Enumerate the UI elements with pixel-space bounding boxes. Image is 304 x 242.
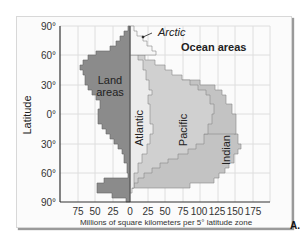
atlantic-label: Atlantic <box>133 109 145 146</box>
svg-text:25: 25 <box>107 206 119 217</box>
svg-text:150: 150 <box>227 206 244 217</box>
svg-text:100: 100 <box>191 206 208 217</box>
svg-text:25: 25 <box>142 206 154 217</box>
svg-text:30°: 30° <box>41 139 56 150</box>
svg-text:50: 50 <box>159 206 171 217</box>
svg-text:60°: 60° <box>41 50 56 61</box>
y-tick-labels: 90° 60° 30° 0° 30° 60° 90° <box>41 21 56 208</box>
svg-text:0°: 0° <box>46 109 56 120</box>
svg-text:75: 75 <box>72 206 84 217</box>
land-label-1: Land <box>98 74 122 86</box>
svg-text:75: 75 <box>177 206 189 217</box>
svg-text:0: 0 <box>127 206 133 217</box>
x-tick-labels: 75 50 25 0 25 50 75 100 125 150 175 <box>72 206 261 217</box>
arctic-pointer <box>142 33 152 38</box>
arctic-label: Arctic <box>157 26 186 38</box>
chart: 90° 60° 30° 0° 30° 60° 90° 75 50 25 0 25… <box>0 0 304 242</box>
figure-label: A. <box>290 220 300 231</box>
x-axis-label: Millions of square kilometers per 5° lat… <box>80 218 253 227</box>
pacific-label: Pacific <box>177 113 189 146</box>
y-axis-label: Latitude <box>21 95 33 134</box>
svg-text:60°: 60° <box>41 168 56 179</box>
svg-text:90°: 90° <box>41 197 56 208</box>
indian-label: Indian <box>220 135 232 165</box>
ocean-areas-label: Ocean areas <box>181 41 246 53</box>
svg-text:30°: 30° <box>41 80 56 91</box>
svg-text:175: 175 <box>245 206 262 217</box>
svg-text:50: 50 <box>89 206 101 217</box>
land-label-2: areas <box>96 86 124 98</box>
arctic-area <box>130 26 156 55</box>
svg-text:90°: 90° <box>41 21 56 32</box>
svg-text:125: 125 <box>209 206 226 217</box>
